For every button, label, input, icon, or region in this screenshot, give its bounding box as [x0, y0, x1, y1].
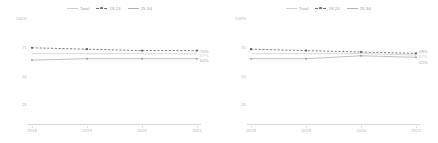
data-point-marker [31, 47, 33, 49]
series-line-total [251, 54, 416, 55]
data-point-marker [415, 56, 417, 58]
series-lines-left [0, 0, 219, 143]
data-point-marker [86, 58, 88, 60]
series-line-18-24 [32, 48, 197, 51]
data-point-marker [31, 59, 33, 61]
x-tick-label-2018: 2018 [27, 128, 37, 133]
x-tick-label-2018: 2018 [246, 128, 256, 133]
data-point-marker [141, 50, 143, 52]
data-point-marker [360, 55, 362, 57]
data-point-marker [415, 52, 417, 54]
data-point-marker [305, 50, 307, 52]
x-tick-label-2021: 2021 [192, 128, 202, 133]
data-point-marker [141, 58, 143, 60]
x-tick-label-2020: 2020 [356, 128, 366, 133]
x-axis-left: 2018 2019 2020 2021 [0, 128, 219, 138]
x-axis-line-left [28, 124, 201, 125]
plot-area-left [0, 0, 219, 143]
data-point-marker [196, 58, 198, 60]
chart-panel-right: Total 18-24 25-34 100% 75 50 25 [219, 0, 438, 143]
data-point-marker [86, 48, 88, 50]
series-line-18-24 [251, 49, 416, 53]
chart-panel-left: Total 18-24 25-34 100% 75 50 25 [0, 0, 219, 143]
data-point-marker [250, 48, 252, 50]
x-axis-line-right [247, 124, 420, 125]
x-tick-label-2021: 2021 [411, 128, 421, 133]
end-label-18-24: 68% [419, 48, 428, 53]
series-line-25-34 [32, 59, 197, 60]
data-point-marker [196, 50, 198, 52]
end-label-25-34: 65% [419, 60, 428, 65]
series-lines-right [219, 0, 438, 143]
dual-line-chart-figure: Total 18-24 25-34 100% 75 50 25 [0, 0, 438, 143]
data-point-marker [305, 58, 307, 60]
end-label-25-34: 64% [200, 58, 209, 63]
data-point-marker [250, 58, 252, 60]
x-tick-label-2019: 2019 [301, 128, 311, 133]
x-axis-right: 2018 2019 2020 2021 [219, 128, 438, 138]
plot-area-right [219, 0, 438, 143]
data-point-marker [360, 51, 362, 53]
x-tick-label-2020: 2020 [137, 128, 147, 133]
x-tick-label-2019: 2019 [82, 128, 92, 133]
end-label-total: 67% [419, 54, 428, 59]
series-line-25-34 [251, 56, 416, 59]
